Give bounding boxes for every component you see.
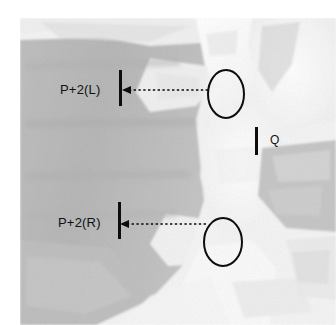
roi-ellipse-lower: [204, 218, 242, 266]
measurement-annotation-layer: [0, 0, 336, 325]
measure-arrow-lower: [120, 220, 206, 228]
tick-mark-p2r: [118, 202, 121, 239]
annotation-label-q: Q: [270, 134, 280, 146]
measure-arrow-upper: [122, 86, 208, 94]
annotation-label-p2l: P+2(L): [60, 83, 101, 96]
roi-ellipse-upper: [208, 70, 244, 118]
annotation-label-p2r: P+2(R): [58, 216, 101, 229]
tick-mark-p2l: [119, 70, 122, 106]
tick-mark-q: [255, 127, 258, 155]
annotated-radiograph-figure: P+2(L) P+2(R) Q: [0, 0, 336, 325]
